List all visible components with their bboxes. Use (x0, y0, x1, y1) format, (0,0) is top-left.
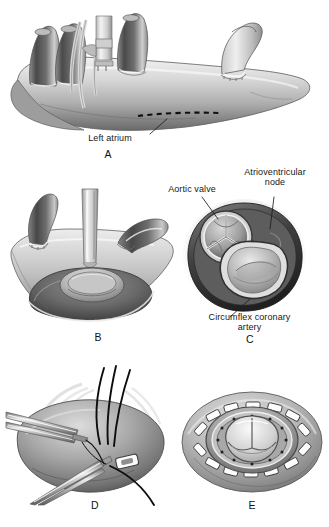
panel-letter-c: C (210, 333, 290, 345)
label-av-node-line1: Atrioventricular (224, 167, 326, 178)
label-av-node-line2: node (224, 177, 326, 188)
panel-e-prosthesis-seated (178, 386, 326, 501)
panel-letter-d: D (55, 499, 135, 511)
prosthetic-leaflets (226, 416, 279, 462)
panel-a-left-atrium-exposure (0, 0, 329, 150)
label-circumflex-line2: artery (182, 322, 317, 333)
panel-letter-a: A (68, 148, 148, 160)
label-aortic-valve: Aortic valve (152, 184, 232, 195)
mitral-valve-orifice (60, 268, 124, 302)
panel-c-annulus-cross-section (178, 195, 329, 320)
label-left-atrium: Left atrium (55, 133, 165, 144)
panel-b-atriotomy-retraction (8, 185, 178, 335)
figure-mitral-valve-replacement: Left atrium A (0, 0, 329, 527)
pulmonary-vein-stump-mid (117, 14, 147, 76)
retractor-blade (82, 189, 98, 268)
mitral-annulus (220, 241, 287, 298)
label-circumflex-line1: Circumflex coronary (182, 312, 317, 323)
panel-letter-b: B (58, 331, 138, 343)
panel-d-suture-placement (4, 360, 179, 505)
panel-letter-e: E (212, 499, 292, 511)
